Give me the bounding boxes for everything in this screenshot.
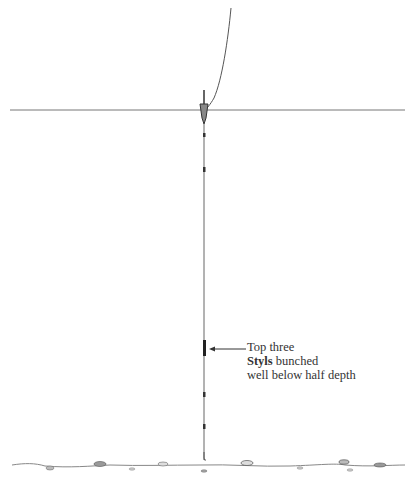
styls-bold: Styls: [247, 354, 273, 368]
shot-icon: [203, 392, 206, 397]
shot-icon: [203, 424, 206, 429]
stone: [46, 466, 54, 470]
float-body-icon: [200, 104, 208, 124]
stone: [201, 470, 207, 472]
annotation-line-1: Top three: [247, 340, 356, 354]
stone: [297, 467, 303, 469]
main-line-curve: [205, 8, 231, 110]
stone: [339, 460, 349, 464]
stone: [241, 461, 253, 466]
shot-icon: [203, 133, 206, 137]
annotation-line-2-rest: bunched: [273, 354, 318, 368]
hook-icon: [204, 452, 206, 460]
shot-icon: [203, 340, 206, 356]
annotation-line-2: Styls bunched: [247, 354, 356, 368]
annotation-line-3: well below half depth: [247, 368, 356, 382]
stone: [374, 463, 386, 467]
stone: [158, 462, 168, 466]
annotation-label: Top three Styls bunched well below half …: [247, 340, 356, 382]
stone: [94, 462, 106, 467]
shot-icon: [203, 167, 206, 172]
rig-diagram: [0, 0, 417, 481]
arrowhead-icon: [209, 347, 215, 352]
stone: [347, 469, 353, 471]
stone: [129, 468, 135, 470]
